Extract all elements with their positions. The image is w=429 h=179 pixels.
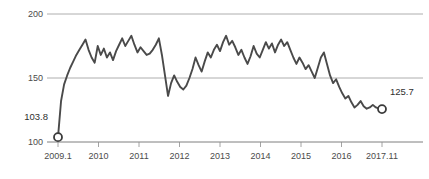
y-axis-tick-label: 150 xyxy=(28,73,43,83)
y-axis-labels-group: 100150200 xyxy=(28,9,43,147)
x-axis-tick-label: 2012 xyxy=(169,151,189,161)
data-annotations-group: 103.8125.7 xyxy=(24,86,414,122)
x-axis-tick-label: 2010 xyxy=(88,151,108,161)
start-marker xyxy=(54,133,62,141)
x-axis-tick-label: 2013 xyxy=(210,151,230,161)
end-value-label: 125.7 xyxy=(390,86,414,97)
line-chart: 100150200 2009.1201020112012201320142015… xyxy=(0,0,429,179)
gridlines-group xyxy=(47,14,423,142)
x-axis-tick-label: 2009.1 xyxy=(44,151,72,161)
y-axis-tick-label: 100 xyxy=(28,137,43,147)
start-value-label: 103.8 xyxy=(24,111,48,122)
x-axis-labels-group: 2009.120102011201220132014201520162017.1… xyxy=(44,151,398,161)
y-axis-tick-label: 200 xyxy=(28,9,43,19)
x-axis-ticks-group xyxy=(58,142,382,147)
data-point-markers-group xyxy=(54,105,386,141)
x-axis-tick-label: 2017.11 xyxy=(366,151,398,161)
end-marker xyxy=(378,105,386,113)
x-axis-tick-label: 2016 xyxy=(331,151,351,161)
x-axis-tick-label: 2015 xyxy=(291,151,311,161)
x-axis-tick-label: 2014 xyxy=(250,151,270,161)
chart-canvas: 100150200 2009.1201020112012201320142015… xyxy=(0,0,429,179)
x-axis-tick-label: 2011 xyxy=(129,151,148,161)
series-line-index xyxy=(58,36,382,137)
